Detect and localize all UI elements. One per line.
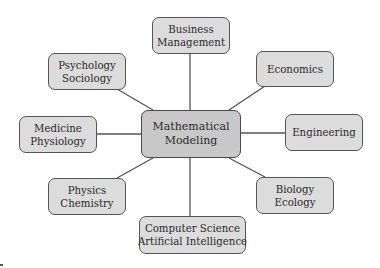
node-label-line: Sociology <box>62 72 112 85</box>
center-label-line: Mathematical <box>153 120 230 134</box>
center-label-line: Modeling <box>165 134 218 148</box>
mind-map-diagram: Business Management Psychology Sociology… <box>0 0 380 268</box>
node-engineering: Engineering <box>285 114 363 151</box>
node-business-management: Business Management <box>152 17 230 54</box>
edge-psychology-sociology <box>117 89 153 110</box>
node-label-line: Physiology <box>30 135 85 148</box>
edge-economics <box>229 86 265 110</box>
node-physics-chemistry: Physics Chemistry <box>48 178 126 215</box>
node-label-line: Biology <box>276 183 315 196</box>
node-label-line: Chemistry <box>60 197 113 210</box>
node-mathematical-modeling: Mathematical Modeling <box>141 110 241 158</box>
node-label-line: Management <box>157 36 225 49</box>
node-label-line: Psychology <box>58 59 116 72</box>
node-computer-science-ai: Computer Science Artificial Intelligence <box>139 216 246 254</box>
node-label-line: Engineering <box>292 126 356 139</box>
node-economics: Economics <box>256 51 334 87</box>
node-label-line: Economics <box>267 63 323 76</box>
node-label-line: Computer Science <box>145 222 240 235</box>
node-label-line: Medicine <box>34 122 82 135</box>
corner-mark <box>0 264 3 266</box>
node-psychology-sociology: Psychology Sociology <box>48 53 126 90</box>
node-label-line: Artificial Intelligence <box>138 235 247 248</box>
edge-physics-chemistry <box>117 158 153 178</box>
node-label-line: Physics <box>68 184 107 197</box>
edge-biology-ecology <box>229 158 265 177</box>
node-label-line: Ecology <box>275 196 316 209</box>
node-medicine-physiology: Medicine Physiology <box>19 116 97 153</box>
node-label-line: Business <box>168 23 214 36</box>
node-biology-ecology: Biology Ecology <box>256 177 334 214</box>
